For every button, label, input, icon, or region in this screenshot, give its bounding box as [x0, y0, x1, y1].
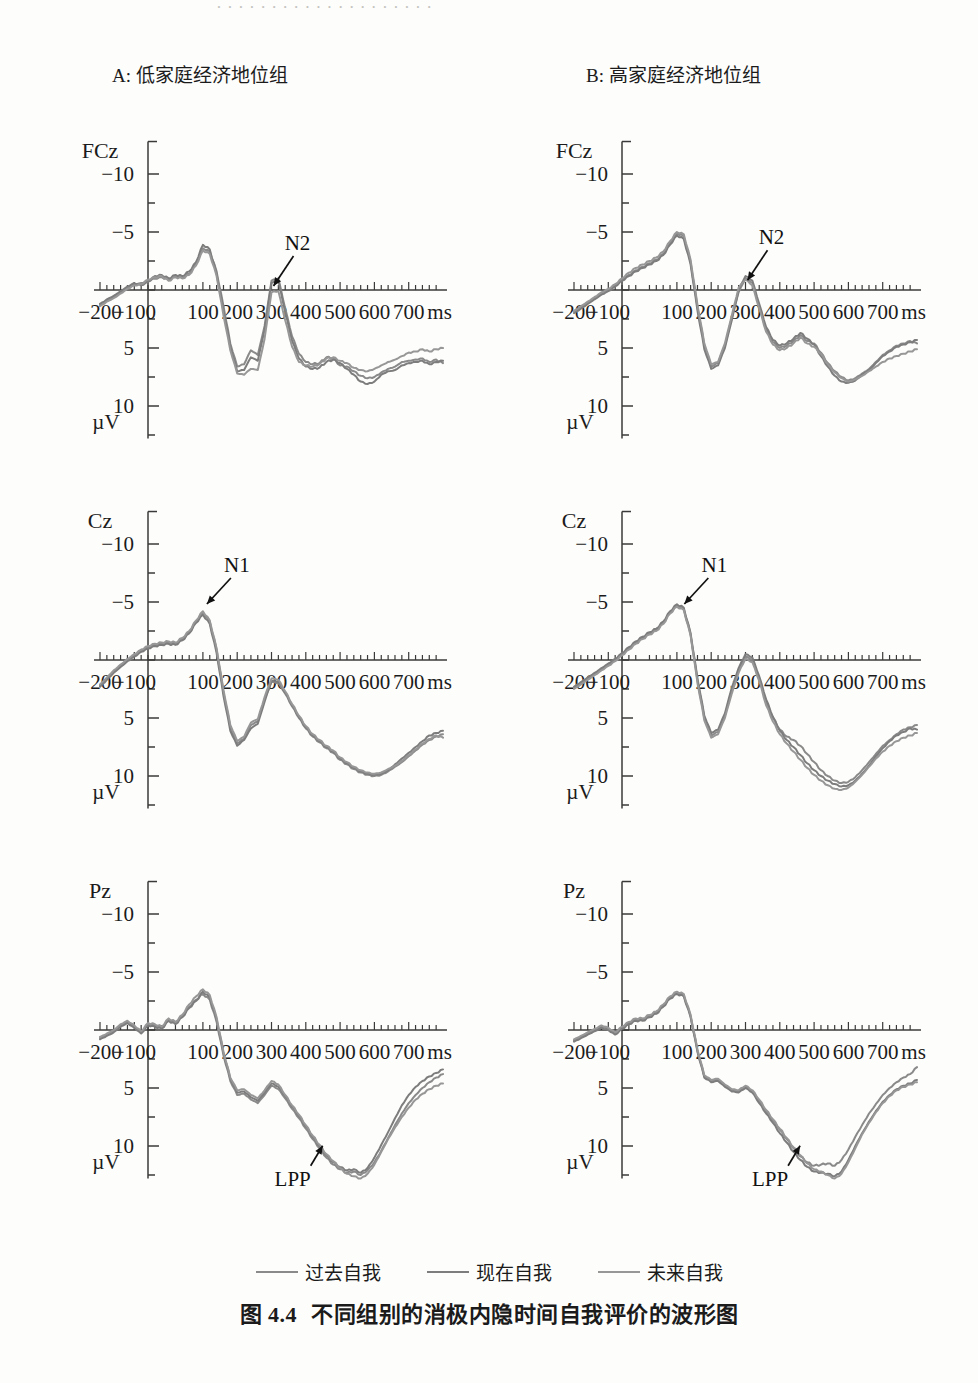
x-axis-unit: ms [901, 1040, 926, 1064]
y-axis-unit: µV [92, 780, 119, 804]
y-tick-label: −5 [586, 590, 608, 614]
y-tick-label: −10 [101, 162, 134, 186]
y-tick-label: −10 [575, 902, 608, 926]
x-tick-label: −100 [113, 670, 156, 694]
subplot-a-cz: −10−5510µVCz−200−10010020030040050060070… [48, 482, 468, 852]
x-tick-label: 600 [359, 1040, 391, 1064]
x-axis-unit: ms [427, 670, 452, 694]
legend-item-present: 现在自我 [427, 1258, 552, 1285]
panel-b-tag: B: [586, 65, 604, 86]
y-tick-label: −10 [575, 162, 608, 186]
legend-swatch-past [256, 1271, 298, 1273]
electrode-label: Cz [88, 508, 113, 533]
annotation-label-lpp: LPP [752, 1167, 788, 1191]
electrode-label: FCz [82, 138, 119, 163]
x-tick-label: 400 [290, 1040, 322, 1064]
x-tick-label: −100 [587, 1040, 630, 1064]
series-legend: 过去自我 现在自我 未来自我 [0, 1258, 978, 1285]
x-tick-label: 500 [324, 300, 356, 324]
subplot-b-cz: −10−5510µVCz−200−10010020030040050060070… [522, 482, 942, 852]
legend-label-present: 现在自我 [476, 1258, 552, 1285]
x-tick-label: 100 [187, 300, 219, 324]
y-tick-label: −10 [101, 902, 134, 926]
x-tick-label: 700 [393, 1040, 425, 1064]
y-tick-label: 5 [124, 1076, 135, 1100]
y-axis-unit: µV [92, 1150, 119, 1174]
y-tick-label: 5 [598, 706, 609, 730]
x-tick-label: 700 [867, 670, 899, 694]
x-tick-label: −100 [113, 1040, 156, 1064]
panel-a-title: A: 低家庭经济地位组 [112, 60, 288, 87]
legend-label-past: 过去自我 [305, 1258, 381, 1285]
annotation-label-n2: N2 [759, 225, 785, 249]
x-axis-unit: ms [901, 300, 926, 324]
x-tick-label: 300 [730, 1040, 762, 1064]
legend-label-future: 未来自我 [647, 1258, 723, 1285]
legend-swatch-present [427, 1271, 469, 1273]
annotation-label-lpp: LPP [275, 1167, 311, 1191]
y-tick-label: 5 [124, 706, 135, 730]
x-axis-unit: ms [427, 300, 452, 324]
y-tick-label: −5 [112, 960, 134, 984]
x-tick-label: 100 [661, 1040, 693, 1064]
annotation-arrow-head [748, 271, 756, 280]
x-tick-label: 200 [221, 670, 253, 694]
waveform-trace [100, 615, 443, 775]
panel-title-row: A: 低家庭经济地位组 B: 高家庭经济地位组 [0, 60, 978, 88]
x-tick-label: 100 [187, 670, 219, 694]
y-tick-label: −10 [575, 532, 608, 556]
x-tick-label: 300 [256, 1040, 288, 1064]
y-axis-unit: µV [566, 1150, 593, 1174]
y-tick-label: 5 [124, 336, 135, 360]
y-tick-label: −5 [112, 220, 134, 244]
y-axis-unit: µV [566, 410, 593, 434]
legend-item-past: 过去自我 [256, 1258, 381, 1285]
x-tick-label: 600 [359, 300, 391, 324]
y-axis-unit: µV [92, 410, 119, 434]
y-tick-label: 5 [598, 1076, 609, 1100]
x-tick-label: 100 [187, 1040, 219, 1064]
subplot-b-pz: −10−5510µVPz−200−10010020030040050060070… [522, 852, 942, 1222]
legend-swatch-future [598, 1271, 640, 1273]
x-tick-label: 500 [798, 300, 830, 324]
x-axis-unit: ms [427, 1040, 452, 1064]
electrode-label: Cz [562, 508, 587, 533]
x-tick-label: 700 [393, 670, 425, 694]
x-tick-label: 600 [833, 1040, 865, 1064]
electrode-label: Pz [89, 878, 111, 903]
x-tick-label: 400 [764, 670, 796, 694]
y-tick-label: 5 [598, 336, 609, 360]
electrode-label: FCz [556, 138, 593, 163]
x-tick-label: 400 [290, 300, 322, 324]
annotation-label-n2: N2 [285, 231, 311, 255]
figure-number: 图 4.4 [240, 1302, 298, 1327]
subplot-a-fcz: −10−5510µVFCz−200−1001002003004005006007… [48, 112, 468, 482]
y-tick-label: −5 [586, 960, 608, 984]
x-tick-label: 600 [833, 300, 865, 324]
waveform-trace [574, 606, 917, 784]
waveform-trace [574, 992, 917, 1179]
waveform-trace [574, 607, 917, 791]
erp-figure: A: 低家庭经济地位组 B: 高家庭经济地位组 −10−5510µVFCz−20… [0, 0, 978, 1383]
y-tick-label: −5 [112, 590, 134, 614]
legend-item-future: 未来自我 [598, 1258, 723, 1285]
x-tick-label: 100 [661, 670, 693, 694]
subplot-a-pz: −10−5510µVPz−200−10010020030040050060070… [48, 852, 468, 1222]
x-tick-label: 500 [324, 1040, 356, 1064]
y-tick-label: −10 [101, 532, 134, 556]
panel-a-label: 低家庭经济地位组 [136, 65, 288, 86]
x-tick-label: 400 [290, 670, 322, 694]
annotation-label-n1: N1 [224, 553, 250, 577]
x-tick-label: 600 [833, 670, 865, 694]
panel-b-title: B: 高家庭经济地位组 [586, 60, 761, 87]
waveform-trace [574, 993, 917, 1166]
y-tick-label: −5 [586, 220, 608, 244]
x-tick-label: −100 [113, 300, 156, 324]
figure-caption-text: 不同组别的消极内隐时间自我评价的波形图 [311, 1302, 739, 1327]
x-tick-label: −100 [587, 300, 630, 324]
x-tick-label: 500 [798, 1040, 830, 1064]
x-tick-label: 500 [324, 670, 356, 694]
annotation-label-n1: N1 [701, 553, 727, 577]
subplot-b-fcz: −10−5510µVFCz−200−1001002003004005006007… [522, 112, 942, 482]
figure-caption: 图 4.4不同组别的消极内隐时间自我评价的波形图 [0, 1296, 978, 1328]
